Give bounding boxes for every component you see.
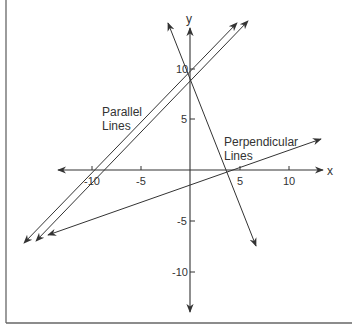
perpendicular-lines-annotation: Perpendicular Lines (224, 135, 298, 163)
y-axis-label: y (186, 12, 192, 26)
x-tick-label: 10 (283, 175, 295, 187)
x-tick-label: 5 (237, 175, 243, 187)
perpendicular-label-line1: Perpendicular (224, 135, 298, 149)
x-tick-label: -5 (136, 175, 146, 187)
parallel-label-line1: Parallel (102, 105, 142, 119)
parallel-line-1 (24, 23, 237, 243)
parallel-lines (24, 21, 248, 243)
y-tick-label: -5 (177, 215, 187, 227)
y-tick-label: -10 (172, 266, 188, 278)
parallel-lines-annotation: Parallel Lines (102, 105, 142, 133)
parallel-line-2 (36, 21, 248, 241)
coordinate-plane-diagram: x -10 -5 5 10 y 10 5 -5 -10 Parallel Lin… (0, 0, 352, 334)
y-tick-label: 5 (181, 113, 187, 125)
parallel-label-line2: Lines (102, 119, 131, 133)
x-axis-label: x (327, 164, 333, 178)
y-axis: y 10 5 -5 -10 (172, 12, 195, 312)
perpendicular-label-line2: Lines (224, 149, 253, 163)
